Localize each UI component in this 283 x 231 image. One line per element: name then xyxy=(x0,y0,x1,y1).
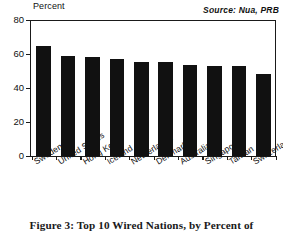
bar-slot xyxy=(134,20,149,156)
y-tick-label: 20 xyxy=(13,116,24,127)
y-tick-label: 60 xyxy=(13,48,24,59)
bar-slot xyxy=(232,20,247,156)
bar-slot xyxy=(207,20,222,156)
bar xyxy=(134,62,149,156)
y-tick-mark xyxy=(26,88,30,89)
y-tick-mark xyxy=(26,156,30,157)
y-axis-unit-label: Percent xyxy=(33,1,65,11)
y-tick-mark xyxy=(26,54,30,55)
source-annotation: Source: Nua, PRB xyxy=(203,5,279,15)
y-tick-mark xyxy=(26,122,30,123)
figure-caption: Figure 3: Top 10 Wired Nations, by Perce… xyxy=(0,219,283,231)
x-axis-labels: SwedenUnited StatesHong KongIcelandNethe… xyxy=(0,158,283,214)
bar-slot xyxy=(36,20,51,156)
bar-slot xyxy=(61,20,76,156)
y-tick-mark xyxy=(26,20,30,21)
bar xyxy=(207,66,222,156)
y-tick-label: 80 xyxy=(13,14,24,25)
bar xyxy=(36,46,51,156)
bar-slot xyxy=(256,20,271,156)
bar xyxy=(256,74,271,156)
figure-container: Percent Source: Nua, PRB 020406080 Swede… xyxy=(0,0,283,231)
bar-slot xyxy=(183,20,198,156)
y-tick-label: 40 xyxy=(13,82,24,93)
bar-series xyxy=(32,20,276,156)
bar xyxy=(61,56,76,156)
